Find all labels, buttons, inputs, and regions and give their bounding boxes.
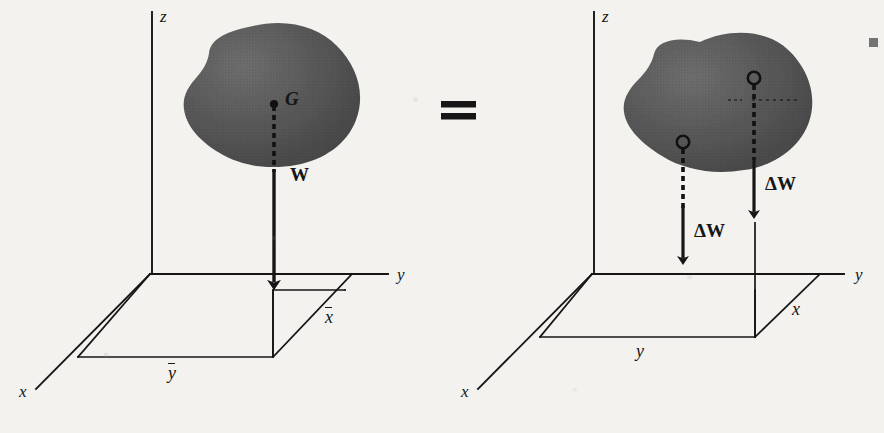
x-bar-overbar [325,307,332,308]
weight-force-label-w: W [290,165,309,184]
left-body-shape [184,23,360,167]
left-x-axis-label: x [19,383,27,400]
y-bar-dimension-label: y [168,362,176,382]
right-panel-group [478,12,844,389]
delta-weight-label-1: ΔW [694,221,725,240]
right-y-axis-label: y [855,266,863,283]
right-body-shape [624,33,813,172]
right-x-coordinate-label: x [792,300,800,318]
right-z-axis-label: z [602,8,609,25]
y-bar-overbar [168,363,175,364]
delta-weight-label-2: ΔW [765,174,796,193]
right-y-coordinate-label: y [636,342,644,360]
left-x-axis [36,274,150,389]
figure-canvas: z y x G W x y z y x ΔW ΔW x y [0,0,884,433]
equals-sign-group [441,101,476,120]
equals-bar-top [441,101,476,108]
equals-bar-bottom [441,113,476,120]
scan-artifact-speck [869,38,878,47]
left-y-axis-label: y [397,266,405,283]
x-bar-dimension-label: x [325,306,333,326]
diagram-vector-layer [0,0,884,433]
right-x-axis [478,274,592,389]
right-x-axis-label: x [461,383,469,400]
left-z-axis-label: z [160,8,167,25]
left-ground-plane [78,274,352,357]
centroid-label-g: G [285,89,299,108]
left-panel-group [36,12,388,389]
